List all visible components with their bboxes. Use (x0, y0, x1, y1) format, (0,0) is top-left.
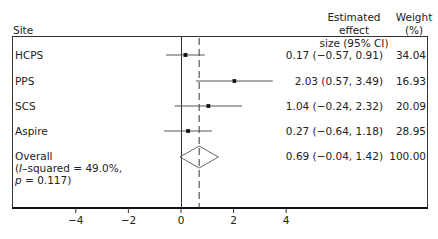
p-value-text: = 0.117) (22, 174, 72, 186)
effect-estimate: 1.04 (−0.24, 2.32) (286, 100, 383, 112)
weight-value: 20.09 (396, 100, 426, 112)
x-tick-label: −4 (66, 214, 86, 226)
overall-effect-estimate: 0.69 (−0.04, 1.42) (286, 150, 383, 162)
x-tick-label: 0 (171, 214, 191, 226)
overall-label-line1: Overall (15, 150, 122, 162)
weight-value: 28.95 (396, 125, 426, 137)
x-tick-label: 4 (276, 214, 296, 226)
heterogeneity-p-value: p = 0.117) (15, 174, 122, 186)
effect-estimate: 0.17 (−0.57, 0.91) (286, 49, 383, 61)
point-estimate-marker (233, 79, 237, 83)
site-label: Aspire (15, 125, 48, 137)
forest-plot (0, 0, 438, 239)
overall-label: Overall (I–squared = 49.0%, p = 0.117) (15, 150, 122, 186)
x-tick-label: −2 (118, 214, 138, 226)
effect-estimate: 0.27 (−0.64, 1.18) (286, 125, 383, 137)
i-squared-text: –squared = 49.0%, (22, 162, 122, 174)
overall-weight-value: 100.00 (389, 150, 426, 162)
heterogeneity-i-squared: (I–squared = 49.0%, (15, 162, 122, 174)
site-label: PPS (15, 75, 34, 87)
effect-estimate: 2.03 (0.57, 3.49) (295, 75, 383, 87)
weight-value: 16.93 (396, 75, 426, 87)
weight-value: 34.04 (396, 49, 426, 61)
point-estimate-marker (207, 104, 211, 108)
study-estimates (164, 53, 273, 133)
site-label: HCPS (15, 49, 43, 61)
point-estimate-marker (186, 129, 190, 133)
p-symbol: p (15, 174, 22, 186)
point-estimate-marker (184, 53, 188, 57)
site-label: SCS (15, 100, 36, 112)
x-tick-label: 2 (224, 214, 244, 226)
